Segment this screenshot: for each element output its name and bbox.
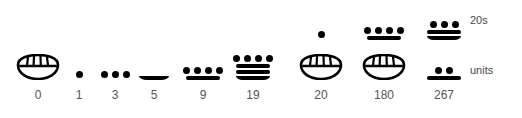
dots-and-bars-glyph (76, 71, 83, 80)
unit-dot (183, 67, 190, 74)
dot-row (435, 67, 453, 74)
five-bar (427, 30, 461, 34)
unit-dot (233, 55, 240, 62)
row-label-twenties: 20s (470, 14, 488, 26)
shell-zero-icon (299, 54, 343, 80)
dot-row (183, 67, 223, 74)
unit-dot (205, 67, 212, 74)
glyph-wrapper (416, 67, 472, 80)
dot-row (318, 31, 325, 38)
unit-dot (441, 21, 448, 28)
shell-zero-icon (362, 54, 406, 80)
five-bar (236, 70, 270, 74)
glyph-wrapper (356, 54, 412, 80)
numeral-units-place (225, 55, 281, 80)
five-bar (367, 36, 401, 40)
dots-and-bars-glyph (427, 67, 461, 80)
row-label-units: units (470, 64, 493, 76)
glyph-wrapper (293, 54, 349, 80)
glyph-wrapper (175, 67, 231, 80)
dot-row (76, 71, 83, 78)
unit-dot (318, 31, 325, 38)
five-bar (427, 36, 461, 40)
bar-stack (367, 36, 401, 40)
dots-and-bars-glyph (364, 27, 404, 40)
unit-dot (194, 67, 201, 74)
bar-stack (236, 64, 270, 80)
numeral-units-place (416, 67, 472, 80)
bar-stack (186, 76, 220, 80)
numeral-value-label: 9 (175, 88, 231, 102)
dots-and-bars-glyph (139, 76, 169, 80)
five-bar (139, 76, 169, 80)
five-bar (427, 76, 461, 80)
unit-dot (101, 71, 108, 78)
numeral-twenties-place (293, 31, 349, 40)
unit-dot (430, 21, 437, 28)
unit-dot (216, 67, 223, 74)
numeral-twenties-place (356, 27, 412, 40)
bar-stack (427, 30, 461, 40)
unit-dot (244, 55, 251, 62)
numeral-value-label: 5 (126, 88, 182, 102)
numeral-units-place (293, 54, 349, 80)
dots-and-bars-glyph (318, 31, 325, 40)
five-bar (236, 76, 270, 80)
dot-row (364, 27, 404, 34)
numeral-units-place (356, 54, 412, 80)
glyph-wrapper (416, 21, 472, 40)
unit-dot (435, 67, 442, 74)
unit-dot (112, 71, 119, 78)
glyph-wrapper (356, 27, 412, 40)
five-bar (236, 64, 270, 68)
glyph-wrapper (126, 76, 182, 80)
unit-dot (364, 27, 371, 34)
dot-row (430, 21, 459, 28)
dot-row (233, 55, 273, 62)
bar-stack (427, 76, 461, 80)
numeral-units-place (126, 76, 182, 80)
numeral-twenties-place (416, 21, 472, 40)
numeral-units-place (175, 67, 231, 80)
dots-and-bars-glyph (427, 21, 461, 40)
unit-dot (255, 55, 262, 62)
unit-dot (386, 27, 393, 34)
dots-and-bars-glyph (233, 55, 273, 80)
glyph-wrapper (293, 31, 349, 40)
numeral-value-label: 19 (225, 88, 281, 102)
numeral-value-label: 180 (356, 88, 412, 102)
unit-dot (452, 21, 459, 28)
unit-dot (266, 55, 273, 62)
five-bar (186, 76, 220, 80)
numeral-value-label: 20 (293, 88, 349, 102)
unit-dot (446, 67, 453, 74)
glyph-wrapper (225, 55, 281, 80)
unit-dot (76, 71, 83, 78)
maya-numerals-figure: 013591920180267 20s units (0, 0, 522, 118)
unit-dot (375, 27, 382, 34)
dots-and-bars-glyph (183, 67, 223, 80)
numeral-value-label: 267 (416, 88, 472, 102)
unit-dot (397, 27, 404, 34)
